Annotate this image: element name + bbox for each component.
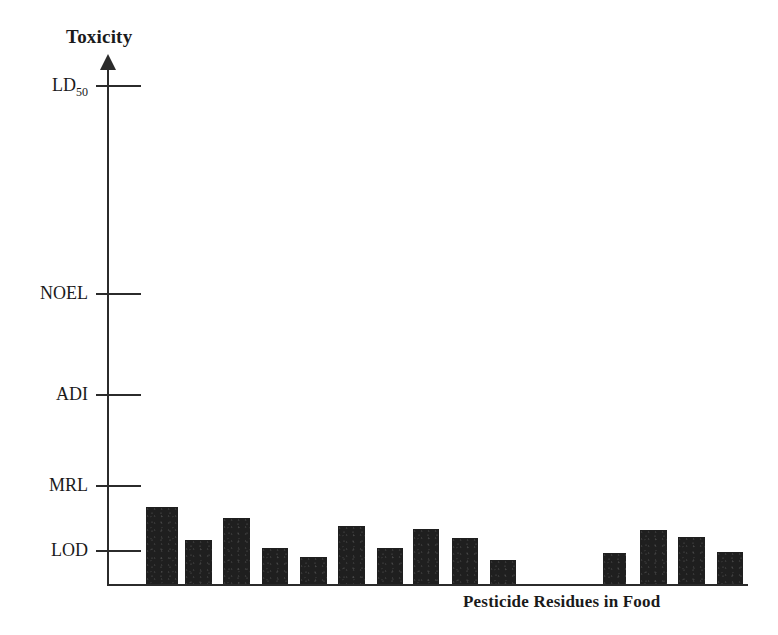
y-axis-line bbox=[107, 68, 109, 586]
bar-12 bbox=[640, 530, 667, 584]
y-axis-title: Toxicity bbox=[66, 26, 132, 48]
bar-7 bbox=[377, 548, 403, 584]
tick-label-ld50-wrap: LD50 bbox=[0, 76, 88, 94]
tick-label-adi: ADI bbox=[0, 385, 88, 403]
tick-label-adi-wrap: ADI bbox=[0, 385, 88, 403]
tick-mark-lod bbox=[96, 550, 141, 552]
bar-5 bbox=[300, 557, 327, 584]
bar-1 bbox=[146, 507, 178, 584]
bar-2 bbox=[185, 540, 212, 584]
x-axis-title: Pesticide Residues in Food bbox=[463, 592, 660, 612]
tick-label-ld50-subscript: 50 bbox=[76, 85, 88, 99]
bar-3 bbox=[223, 518, 250, 584]
bar-4 bbox=[262, 548, 288, 584]
bar-8 bbox=[413, 529, 439, 584]
tick-label-ld50-main: LD bbox=[52, 75, 76, 95]
bar-11 bbox=[603, 553, 626, 584]
tick-label-lod-wrap: LOD bbox=[0, 541, 88, 559]
bar-9 bbox=[452, 538, 478, 584]
bar-14 bbox=[717, 552, 743, 584]
bar-6 bbox=[338, 526, 365, 584]
bar-10 bbox=[490, 560, 516, 584]
tick-label-noel-wrap: NOEL bbox=[0, 284, 88, 302]
toxicity-residue-bar-chart: Toxicity LD50 NOEL ADI MRL LOD Pesticide… bbox=[0, 0, 778, 635]
tick-label-lod: LOD bbox=[0, 541, 88, 559]
tick-label-ld50: LD50 bbox=[0, 76, 88, 98]
tick-label-noel: NOEL bbox=[0, 284, 88, 302]
tick-mark-noel bbox=[96, 293, 141, 295]
tick-mark-ld50 bbox=[96, 85, 141, 87]
tick-label-mrl-wrap: MRL bbox=[0, 476, 88, 494]
x-axis-baseline bbox=[107, 584, 748, 586]
tick-mark-adi bbox=[96, 394, 141, 396]
tick-mark-mrl bbox=[96, 485, 141, 487]
tick-label-mrl: MRL bbox=[0, 476, 88, 494]
bar-13 bbox=[678, 537, 705, 584]
